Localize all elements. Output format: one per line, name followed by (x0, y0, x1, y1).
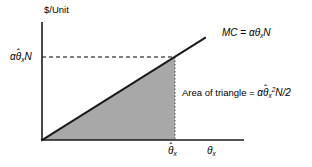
area-text: Area of triangle (182, 88, 246, 98)
area-annotation: Area of triangle = αˆθx2N/2 (182, 88, 291, 98)
mc-equals: = (240, 28, 246, 38)
area-divisor: /2 (283, 88, 291, 98)
x-axis-subscript: x (212, 151, 215, 158)
hat-accent-icon: ˆ (169, 141, 172, 151)
hat-accent-icon: ˆ (264, 83, 267, 93)
y-axis-tick-label: αˆθxN (10, 52, 32, 62)
x-axis-tick-label: ˆθx (168, 146, 177, 156)
y-tick-n: N (24, 52, 31, 62)
area-superscript: 2 (272, 87, 276, 94)
y-tick-subscript: x (21, 57, 24, 64)
area-equals: = (249, 88, 255, 98)
area-n: N (275, 88, 282, 98)
hat-accent-icon: ˆ (17, 47, 20, 57)
marginal-cost-chart: $/Unit αˆθxN MC = αθxN Area of triangle … (0, 0, 312, 167)
x-tick-subscript: x (173, 151, 176, 158)
mc-subscript: x (260, 33, 263, 40)
mc-text: MC (222, 28, 238, 38)
x-axis-title: θx (207, 146, 216, 156)
area-subscript: x (268, 93, 271, 100)
y-axis-title: $/Unit (44, 5, 69, 15)
mc-n: N (263, 28, 270, 38)
mc-curve-label: MC = αθxN (222, 28, 271, 38)
